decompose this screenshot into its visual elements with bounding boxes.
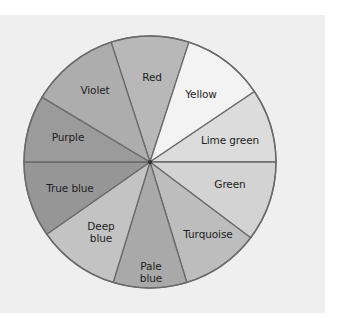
- wheel-center-dot: [148, 160, 152, 164]
- colour-wheel: [0, 0, 345, 318]
- segment-label: Turquoise: [183, 228, 232, 240]
- segment-label: Green: [214, 178, 245, 190]
- segment-label: Deep blue: [87, 220, 114, 244]
- segment-label: Red: [142, 71, 162, 83]
- segment-label: Violet: [80, 84, 109, 96]
- segment-label: Pale blue: [140, 260, 162, 284]
- segment-label: Yellow: [185, 88, 217, 100]
- segment-label: Purple: [52, 131, 85, 143]
- segment-label: True blue: [46, 182, 93, 194]
- segment-label: Lime green: [201, 134, 259, 146]
